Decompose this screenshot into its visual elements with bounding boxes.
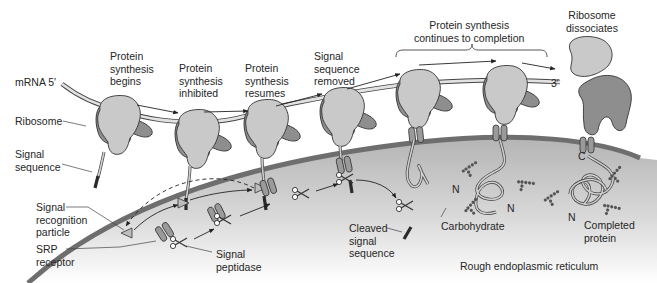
ribosome-small-subunit-free	[569, 37, 612, 77]
label-carbohydrate: Carbohydrate	[441, 220, 505, 233]
label-signal-peptidase: Signal peptidase	[216, 248, 262, 273]
step-label-resumes: Protein synthesis resumes	[245, 62, 289, 100]
rer-protein-synthesis-diagram: Protein synthesis begins Protein synthes…	[0, 0, 657, 283]
label-completed-protein: Completed protein	[584, 219, 635, 244]
step-label-inhibited: Protein synthesis inhibited	[179, 62, 223, 100]
label-signal-sequence: Signal sequence	[15, 148, 61, 173]
signal-sequence-1	[95, 176, 98, 188]
label-mrna-5-prime: mRNA 5′	[15, 76, 56, 89]
label-mrna-3-prime: 3′	[551, 77, 559, 90]
diagram-artwork	[0, 0, 657, 283]
step-label-dissociates: Ribosome dissociates	[566, 9, 618, 34]
ribosome-6	[483, 66, 539, 125]
label-rough-er: Rough endoplasmic reticulum	[460, 260, 598, 273]
label-n-terminus-3: N	[568, 211, 576, 224]
label-n-terminus-1: N	[452, 183, 460, 196]
step-label-begins: Protein synthesis begins	[110, 50, 154, 88]
label-cleaved-signal-sequence: Cleaved signal sequence	[349, 222, 395, 260]
ribosome-1	[96, 96, 152, 155]
step-label-signal-removed: Signal sequence removed	[314, 50, 360, 88]
label-c-terminus: C	[578, 150, 586, 163]
ribosome-4	[320, 88, 376, 147]
completion-brace	[396, 44, 547, 57]
label-ribosome: Ribosome	[15, 115, 62, 128]
label-n-terminus-2: N	[507, 202, 515, 215]
label-srp-receptor: SRP receptor	[36, 243, 75, 268]
ribosome-3	[244, 100, 300, 159]
ribosome-5	[396, 70, 452, 129]
ribosome-large-subunit-free	[579, 75, 632, 134]
step-label-continues: Protein synthesis continues to completio…	[414, 19, 524, 44]
label-srp: Signal recognition particle	[36, 201, 87, 239]
